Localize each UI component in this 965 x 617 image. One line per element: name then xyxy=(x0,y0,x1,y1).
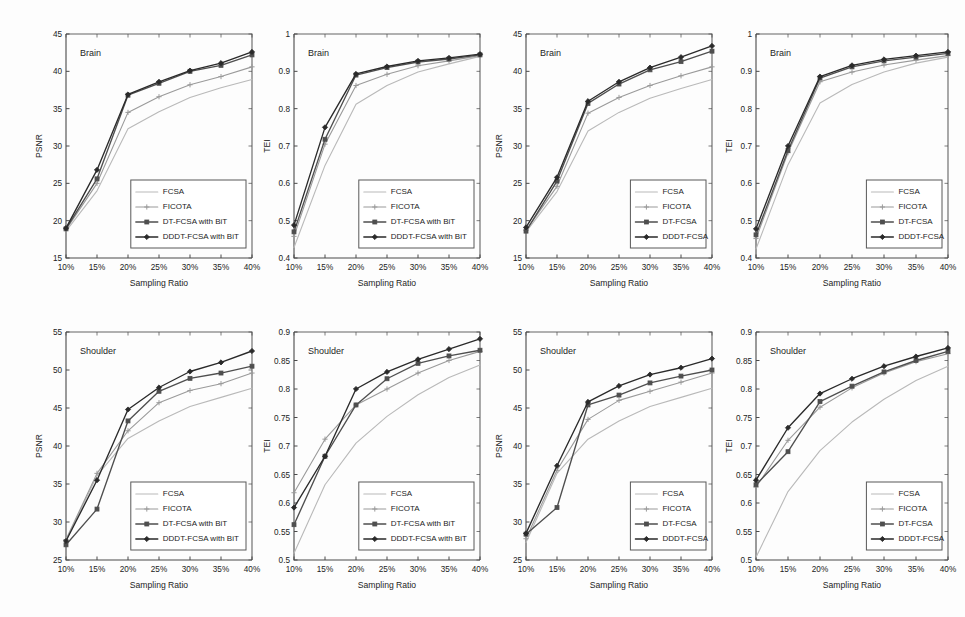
legend-label: FCSA xyxy=(662,187,684,196)
x-tick-label: 35% xyxy=(673,565,689,574)
legend-label: FCSA xyxy=(163,187,185,196)
chart-panel-4: 0.40.50.60.70.80.9110%15%20%25%30%35%40%… xyxy=(720,18,958,310)
x-tick-label: 30% xyxy=(410,263,426,272)
y-tick-label: 0.85 xyxy=(736,357,752,366)
y-tick-label: 0.55 xyxy=(274,528,290,537)
x-axis-title: Sampling Ratio xyxy=(358,580,416,590)
legend-label: FICOTA xyxy=(163,504,192,513)
legend-label: FICOTA xyxy=(898,504,927,513)
chart-panel-8: 0.50.550.60.650.70.750.80.850.910%15%20%… xyxy=(720,316,958,612)
x-tick-label: 25% xyxy=(844,263,860,272)
x-tick-label: 25% xyxy=(611,263,627,272)
legend-label: DDDT-FCSA with BiT xyxy=(391,232,467,241)
legend-label: FCSA xyxy=(391,187,413,196)
legend-label: FICOTA xyxy=(391,202,420,211)
y-tick-label: 0.5 xyxy=(741,217,753,226)
x-tick-label: 30% xyxy=(876,263,892,272)
x-tick-label: 25% xyxy=(151,565,167,574)
y-tick-label: 0.8 xyxy=(741,105,753,114)
legend: FCSAFICOTADT-FCSA with BiTDDDT-FCSA with… xyxy=(131,482,246,550)
x-tick-label: 30% xyxy=(876,565,892,574)
legend-label: FICOTA xyxy=(163,202,192,211)
x-tick-label: 40% xyxy=(472,263,488,272)
x-axis-title: Sampling Ratio xyxy=(358,278,416,288)
chart-svg: 0.40.50.60.70.80.9110%15%20%25%30%35%40%… xyxy=(720,18,958,310)
y-tick-label: 0.65 xyxy=(274,471,290,480)
x-axis-title: Sampling Ratio xyxy=(130,580,188,590)
legend-label: DT-FCSA with BiT xyxy=(163,217,228,226)
x-tick-label: 25% xyxy=(151,263,167,272)
y-tick-label: 1 xyxy=(747,30,752,39)
y-tick-label: 0.85 xyxy=(274,357,290,366)
y-tick-label: 0.75 xyxy=(736,414,752,423)
x-axis-title: Sampling Ratio xyxy=(590,580,648,590)
y-tick-label: 35 xyxy=(513,105,523,114)
y-tick-label: 50 xyxy=(513,366,523,375)
x-tick-label: 40% xyxy=(940,263,956,272)
y-tick-label: 45 xyxy=(53,404,63,413)
x-tick-label: 10% xyxy=(58,263,74,272)
x-tick-label: 15% xyxy=(317,263,333,272)
x-tick-label: 15% xyxy=(549,565,565,574)
x-tick-label: 15% xyxy=(89,565,105,574)
legend-label: DT-FCSA xyxy=(898,217,933,226)
chart-svg: 0.40.50.60.70.80.9110%15%20%25%30%35%40%… xyxy=(258,18,490,310)
series-dddt xyxy=(753,345,950,482)
panel-annotation: Shoulder xyxy=(308,346,344,356)
y-tick-label: 45 xyxy=(513,30,523,39)
y-axis-title: PSNR xyxy=(34,434,44,458)
y-tick-label: 40 xyxy=(53,67,63,76)
x-tick-label: 10% xyxy=(286,565,302,574)
y-axis-title: PSNR xyxy=(494,434,504,458)
x-tick-label: 25% xyxy=(379,263,395,272)
x-tick-label: 10% xyxy=(286,263,302,272)
x-tick-label: 10% xyxy=(518,263,534,272)
series-ficota xyxy=(753,351,950,490)
y-tick-label: 30 xyxy=(513,518,523,527)
legend: FCSAFICOTADT-FCSADDDT-FCSA xyxy=(630,180,708,248)
x-tick-label: 30% xyxy=(182,263,198,272)
legend: FCSAFICOTADT-FCSA with BiTDDDT-FCSA with… xyxy=(359,180,474,248)
x-tick-label: 30% xyxy=(642,263,658,272)
y-tick-label: 55 xyxy=(513,328,523,337)
y-tick-label: 40 xyxy=(513,67,523,76)
y-tick-label: 0.5 xyxy=(279,217,291,226)
y-tick-label: 20 xyxy=(53,217,63,226)
panel-annotation: Shoulder xyxy=(80,346,116,356)
x-axis-title: Sampling Ratio xyxy=(130,278,188,288)
y-tick-label: 0.8 xyxy=(279,105,291,114)
chart-panel-6: 0.50.550.60.650.70.750.80.850.910%15%20%… xyxy=(258,316,490,612)
legend-label: DT-FCSA xyxy=(662,217,697,226)
panel-annotation: Brain xyxy=(540,48,561,58)
y-axis-title: TEI xyxy=(724,139,734,152)
x-tick-label: 40% xyxy=(704,565,720,574)
y-tick-label: 0.9 xyxy=(741,67,753,76)
x-tick-label: 20% xyxy=(348,263,364,272)
legend-label: FCSA xyxy=(898,187,920,196)
y-tick-label: 0.65 xyxy=(736,471,752,480)
y-tick-label: 25 xyxy=(513,556,523,565)
legend-label: FCSA xyxy=(662,489,684,498)
y-tick-label: 25 xyxy=(513,179,523,188)
y-tick-label: 0.6 xyxy=(741,499,753,508)
legend-label: DT-FCSA with BiT xyxy=(391,519,456,528)
x-tick-label: 35% xyxy=(441,565,457,574)
y-tick-label: 0.6 xyxy=(279,179,291,188)
y-tick-label: 45 xyxy=(53,30,63,39)
legend: FCSAFICOTADT-FCSADDDT-FCSA xyxy=(866,180,944,248)
y-axis-title: PSNR xyxy=(494,134,504,158)
x-tick-label: 10% xyxy=(58,565,74,574)
x-tick-label: 30% xyxy=(182,565,198,574)
y-tick-label: 0.5 xyxy=(279,556,291,565)
legend-label: FCSA xyxy=(163,489,185,498)
legend-label: FICOTA xyxy=(391,504,420,513)
y-axis-title: TEI xyxy=(724,439,734,452)
y-tick-label: 35 xyxy=(53,480,63,489)
chart-svg: 2530354045505510%15%20%25%30%35%40%Sampl… xyxy=(490,316,722,612)
legend-label: FICOTA xyxy=(662,504,691,513)
x-tick-label: 10% xyxy=(748,565,764,574)
x-tick-label: 20% xyxy=(120,263,136,272)
x-tick-label: 10% xyxy=(748,263,764,272)
y-tick-label: 50 xyxy=(53,366,63,375)
legend: FCSAFICOTADT-FCSADDDT-FCSA xyxy=(630,482,708,550)
